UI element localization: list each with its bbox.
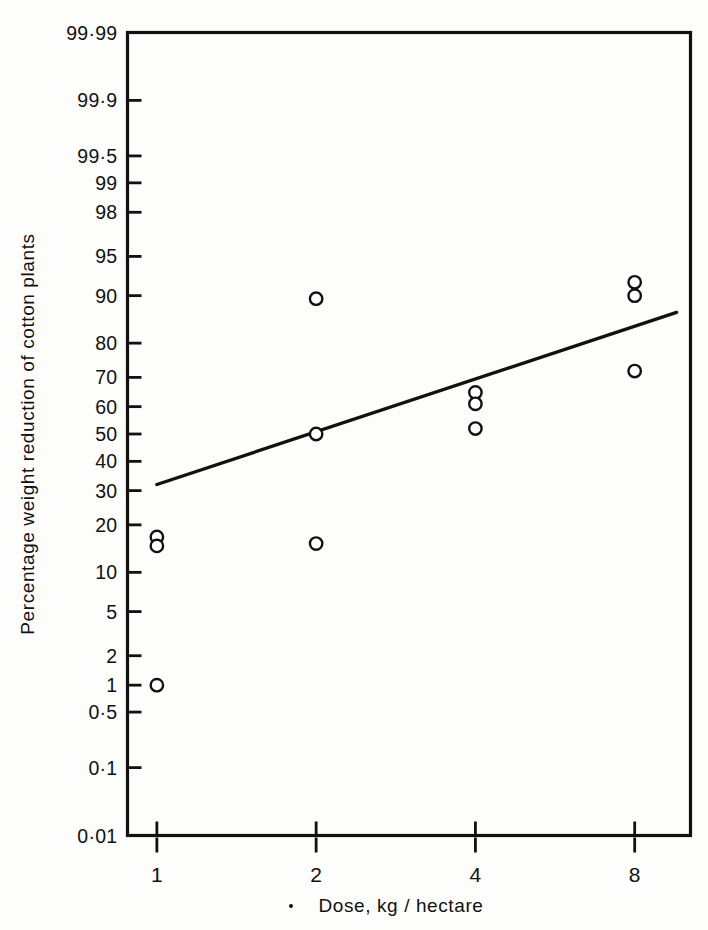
y-tick-label: 99·9 <box>77 89 117 111</box>
data-point-marker <box>628 289 640 301</box>
y-tick-label: 70 <box>95 366 117 388</box>
data-point-marker <box>310 428 322 440</box>
y-tick-label: 99 <box>95 172 117 194</box>
fitted-regression-line <box>157 312 677 484</box>
x-tick-label: 1 <box>151 863 163 886</box>
y-tick-label: 0·01 <box>77 825 117 847</box>
y-tick-label: 2 <box>106 645 117 667</box>
y-axis-title: Percentage weight reduction of cotton pl… <box>17 233 38 634</box>
y-tick-label: 80 <box>95 332 117 354</box>
x-tick-label: 4 <box>470 863 482 886</box>
y-tick-label: 0·1 <box>88 757 117 779</box>
data-point-marker <box>310 292 322 304</box>
data-point-marker <box>628 365 640 377</box>
plot-frame <box>128 33 691 836</box>
y-tick-label: 50 <box>95 423 117 445</box>
y-axis-tick-marks <box>128 100 142 767</box>
x-axis-tick-labels: 1248 <box>151 863 640 886</box>
data-point-marker <box>310 537 322 549</box>
x-title-leading-dot <box>289 904 293 908</box>
fit-line <box>157 312 677 484</box>
y-tick-label: 60 <box>95 396 117 418</box>
y-tick-label: 99·99 <box>66 22 117 44</box>
y-tick-label: 90 <box>95 285 117 307</box>
y-tick-label: 98 <box>95 201 117 223</box>
data-point-marker <box>469 398 481 410</box>
data-point-marker <box>151 679 163 691</box>
data-points <box>151 276 641 691</box>
y-tick-label: 95 <box>95 245 117 267</box>
x-tick-label: 2 <box>310 863 322 886</box>
data-point-marker <box>628 276 640 288</box>
y-tick-label: 30 <box>95 480 117 502</box>
y-tick-label: 40 <box>95 450 117 472</box>
y-tick-label: 20 <box>95 514 117 536</box>
axis-titles: Dose, kg / hectarePercentage weight redu… <box>17 233 484 916</box>
data-point-marker <box>469 422 481 434</box>
data-point-marker <box>151 540 163 552</box>
x-axis-title: Dose, kg / hectare <box>319 895 484 916</box>
y-axis-tick-labels: 99·9999·999·5999895908070605040302010521… <box>66 22 117 847</box>
probit-dose-response-plot: 99·9999·999·5999895908070605040302010521… <box>0 0 708 930</box>
y-tick-label: 10 <box>95 561 117 583</box>
x-tick-label: 8 <box>629 863 641 886</box>
figure-container: 99·9999·999·5999895908070605040302010521… <box>0 0 708 930</box>
y-tick-label: 1 <box>106 674 117 696</box>
plot-frame-rect <box>128 33 691 836</box>
y-tick-label: 0·5 <box>88 701 117 723</box>
y-tick-label: 5 <box>106 601 117 623</box>
y-tick-label: 99·5 <box>77 145 117 167</box>
